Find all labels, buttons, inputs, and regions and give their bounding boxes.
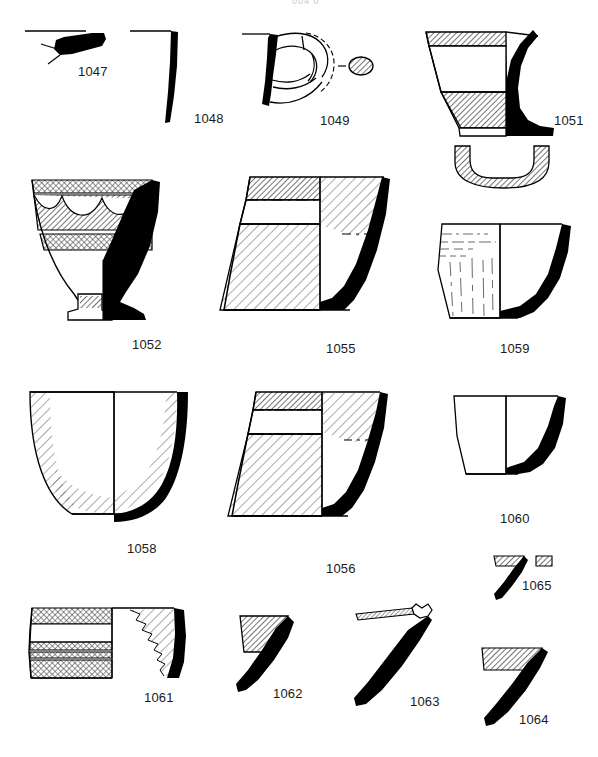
- figure-1052: [22, 168, 187, 333]
- blank-band-left-1056: [248, 410, 322, 434]
- body-left-1060: [454, 396, 506, 474]
- figure-label-1055: 1055: [326, 341, 356, 356]
- pottery-plate: 004 0: [0, 0, 598, 757]
- band-blank-1061: [30, 624, 112, 642]
- figure-label-1052: 1052: [132, 337, 162, 352]
- lower-band-left-1056: [228, 434, 322, 516]
- sherd-body-1047: [54, 33, 106, 55]
- solid-wall-1059: [500, 224, 571, 318]
- band-3-1061: [30, 652, 112, 658]
- handle-outline-1049: [270, 33, 328, 103]
- base-ring-left-1051: [459, 128, 506, 136]
- body-left-1059: [438, 224, 500, 318]
- figure-label-1048: 1048: [194, 111, 224, 126]
- figure-label-1049: 1049: [320, 113, 350, 128]
- rim-band-left-1055: [246, 177, 320, 200]
- base-ring-profile-1051: [455, 146, 549, 188]
- solid-wall-1063: [354, 616, 432, 706]
- figure-label-1058: 1058: [127, 541, 157, 556]
- top-cut-text: 004 0: [292, 0, 320, 6]
- rim-band-left-1056: [253, 392, 322, 410]
- rim-lip-1063: [412, 604, 432, 618]
- figure-1048: [128, 26, 198, 136]
- figure-label-1059: 1059: [500, 341, 530, 356]
- figure-1059: [428, 218, 583, 338]
- figure-label-1062: 1062: [273, 686, 303, 701]
- figure-1051: [408, 24, 593, 184]
- figure-label-1051: 1051: [554, 113, 584, 128]
- band-1-1061: [31, 608, 112, 624]
- figure-label-1056: 1056: [326, 561, 356, 576]
- solid-wall-1060: [506, 396, 566, 474]
- lower-band-left-1055: [220, 224, 320, 310]
- vessel-wall-1049: [262, 34, 278, 106]
- wall-profile-1048: [165, 31, 178, 123]
- figure-label-1047: 1047: [78, 64, 108, 79]
- band-4-1061: [30, 660, 112, 678]
- figure-label-1063: 1063: [410, 694, 440, 709]
- detached-fragment-1065: [536, 556, 552, 566]
- figure-1047: [20, 22, 130, 72]
- figure-1060: [444, 390, 579, 500]
- section-band-upper-1051: [426, 32, 506, 46]
- figure-1061: [24, 600, 199, 690]
- figure-label-1065: 1065: [522, 578, 552, 593]
- figure-label-1061: 1061: [144, 690, 174, 705]
- figure-1058: [22, 386, 202, 536]
- figure-1055: [232, 172, 392, 332]
- figure-label-1060: 1060: [500, 511, 530, 526]
- figure-1063: [350, 600, 460, 710]
- figure-1049: [242, 24, 392, 119]
- rim-strip-1063: [356, 608, 414, 620]
- handle-section-1049: [349, 57, 373, 75]
- break-hatch-1061: [130, 608, 174, 676]
- band-2-1061: [30, 642, 112, 650]
- blank-band-left-1055: [240, 200, 320, 224]
- figure-1056: [232, 386, 392, 546]
- section-blank-1051: [429, 46, 506, 92]
- figure-label-1064: 1064: [519, 712, 549, 727]
- solid-wall-1051: [506, 30, 554, 136]
